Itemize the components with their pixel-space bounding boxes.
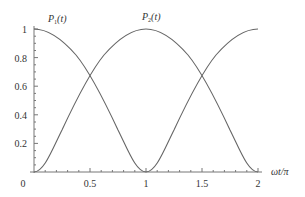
y-tick-label: 0.6 [15, 81, 28, 92]
y-tick-label: 1 [22, 24, 27, 35]
chart: 1 0.8 0.6 0.4 0.2 0 0.5 1 1.5 2 ωt/π P1(… [0, 0, 305, 197]
x-tick-label: 0.5 [84, 178, 97, 189]
p1-curve [34, 29, 258, 172]
y-ticks [34, 29, 38, 165]
y-tick-label: 0.4 [15, 110, 28, 121]
p1-label: P1(t) [47, 13, 67, 25]
p2-label: P2(t) [141, 11, 161, 23]
y-tick-label: 0.8 [15, 53, 28, 64]
p2-curve [34, 29, 258, 172]
y-tick-label: 0.2 [15, 138, 28, 149]
x-tick-label: 1 [144, 178, 149, 189]
x-tick-label: 0 [21, 178, 26, 189]
x-tick-label: 1.5 [196, 178, 209, 189]
x-axis-label: ωt/π [271, 166, 290, 177]
x-tick-label: 2 [256, 178, 261, 189]
